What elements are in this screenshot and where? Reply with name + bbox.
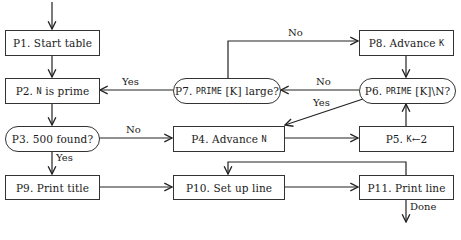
node-p10-set-up-line: P10. Set up line	[173, 175, 285, 200]
node-p8-advance-k: P8. Advance K	[359, 30, 454, 56]
node-p5-k-gets-2: P5. K←2	[359, 126, 454, 152]
node-p6-prefix: P6.	[365, 85, 382, 97]
node-p1-prefix: P1.	[13, 37, 30, 49]
node-p11-prefix: P11.	[367, 182, 391, 194]
node-p6-prime-k-divides-n: P6. PRIME [K]\N?	[359, 78, 456, 104]
node-p5-prefix: P5.	[386, 133, 403, 145]
node-p3-text: 500 found?	[33, 133, 93, 145]
node-p1-start-table: P1. Start table	[5, 30, 100, 56]
node-p9-print-title: P9. Print title	[5, 175, 100, 200]
node-p4-text: Advance	[212, 133, 258, 145]
node-p9-prefix: P9.	[16, 182, 33, 194]
edge-label-p11-done: Done	[410, 201, 436, 212]
node-p8-text: Advance	[390, 37, 436, 49]
node-p8-prefix: P8.	[369, 37, 386, 49]
node-p10-text: Set up line	[214, 182, 273, 194]
node-p11-text: Print line	[395, 182, 445, 194]
edge-label-p7-p2-yes: Yes	[122, 76, 139, 87]
node-p10-prefix: P10.	[186, 182, 210, 194]
node-p7-code: PRIME	[196, 86, 222, 96]
node-p7-prime-k-large: P7. PRIME [K] large?	[173, 78, 281, 104]
node-p3-500-found: P3. 500 found?	[5, 126, 100, 152]
node-p11-print-line: P11. Print line	[359, 175, 454, 200]
node-p5-text: ←2	[412, 133, 428, 145]
node-p8-code: K	[439, 38, 444, 48]
node-p1-text: Start table	[34, 37, 92, 49]
node-p7-text: [K] large?	[225, 85, 279, 97]
node-p4-prefix: P4.	[191, 133, 208, 145]
node-p2-code: N	[37, 86, 42, 96]
node-p9-text: Print title	[37, 182, 89, 194]
node-p6-code: PRIME	[386, 86, 412, 96]
edge-label-p7-p8-no: No	[288, 27, 303, 38]
node-p2-n-is-prime: P2. N is prime	[5, 78, 100, 104]
node-p7-prefix: P7.	[175, 85, 192, 97]
edge-label-p6-p4-yes: Yes	[313, 97, 330, 108]
node-p4-code: N	[262, 134, 267, 144]
edge-label-p3-p9-yes: Yes	[56, 152, 73, 163]
edge-label-p3-p4-no: No	[126, 124, 141, 135]
edge-label-p6-p7-no: No	[316, 76, 331, 87]
node-p4-advance-n: P4. Advance N	[173, 126, 285, 152]
node-p2-prefix: P2.	[16, 85, 33, 97]
node-p6-text: [K]\N?	[415, 85, 450, 97]
node-p2-text: is prime	[45, 85, 89, 97]
node-p3-prefix: P3.	[12, 133, 29, 145]
